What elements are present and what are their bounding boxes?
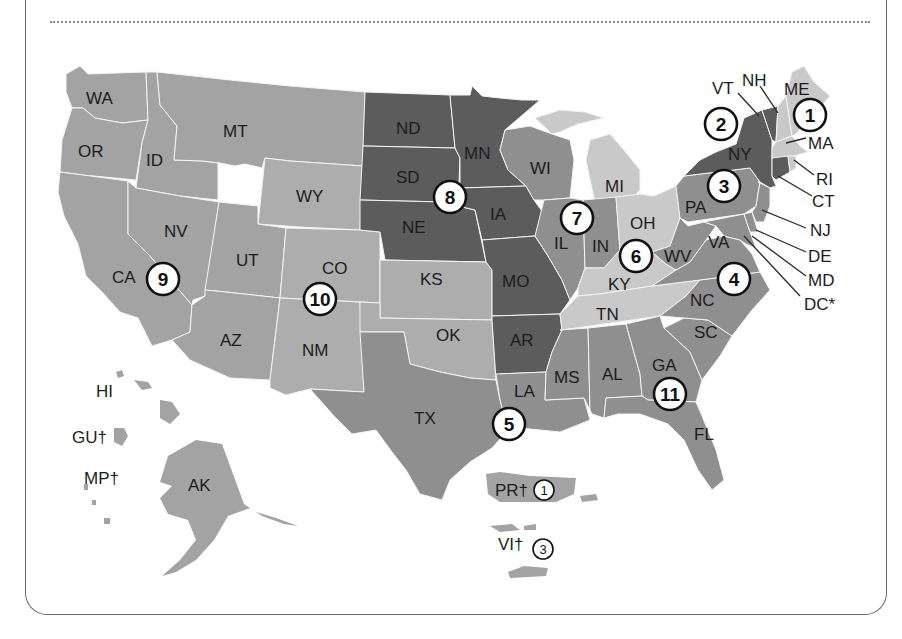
label-NV: NV — [164, 222, 188, 241]
state-RI[interactable] — [788, 156, 796, 172]
state-MT[interactable] — [157, 72, 365, 168]
label-AL: AL — [602, 365, 623, 384]
label-MT: MT — [223, 122, 248, 141]
label-WY: WY — [296, 187, 323, 206]
region-marker-7[interactable]: 7 — [561, 202, 593, 234]
label-MN: MN — [464, 144, 490, 163]
label-ME: ME — [784, 80, 810, 99]
label-MA: MA — [808, 134, 834, 153]
svg-text:1: 1 — [540, 483, 547, 498]
region-marker-8[interactable]: 8 — [434, 181, 466, 213]
label-KS: KS — [420, 270, 443, 289]
label-MS: MS — [554, 368, 580, 387]
region-marker-10[interactable]: 10 — [304, 283, 336, 315]
region-marker-6[interactable]: 6 — [620, 240, 652, 272]
label-VA: VA — [708, 233, 730, 252]
state-MP[interactable] — [84, 484, 110, 524]
label-CT: CT — [812, 192, 835, 211]
svg-text:4: 4 — [729, 269, 740, 290]
label-DE: DE — [808, 247, 832, 266]
label-ND: ND — [396, 119, 421, 138]
label-IN: IN — [592, 237, 609, 256]
label-AK: AK — [188, 476, 211, 495]
region-marker-1[interactable]: 1 — [794, 99, 826, 131]
region-marker-3[interactable]: 3 — [708, 170, 740, 202]
label-UT: UT — [236, 251, 259, 270]
label-GA: GA — [652, 356, 677, 375]
label-WV: WV — [664, 247, 692, 266]
svg-text:7: 7 — [572, 208, 583, 229]
label-RI: RI — [816, 170, 833, 189]
svg-text:11: 11 — [660, 384, 681, 405]
region-marker-5[interactable]: 5 — [493, 408, 525, 440]
label-OH: OH — [630, 214, 656, 233]
label-SD: SD — [396, 168, 420, 187]
label-MI: MI — [605, 177, 624, 196]
label-ID: ID — [146, 151, 163, 170]
label-MO: MO — [502, 272, 529, 291]
svg-text:1: 1 — [805, 105, 816, 126]
label-OR: OR — [78, 142, 104, 161]
label-VI: VI† — [498, 535, 524, 554]
label-WI: WI — [530, 159, 551, 178]
label-NY: NY — [728, 145, 752, 164]
svg-text:3: 3 — [539, 542, 546, 557]
svg-text:9: 9 — [158, 269, 169, 290]
state-shapes — [58, 66, 380, 395]
label-AR: AR — [510, 331, 534, 350]
region-marker-9[interactable]: 9 — [147, 263, 179, 295]
state-AK[interactable] — [160, 440, 298, 576]
state-KS[interactable] — [380, 260, 492, 320]
label-IL: IL — [554, 234, 568, 253]
svg-text:2: 2 — [716, 114, 727, 135]
label-WA: WA — [86, 89, 113, 108]
region-marker-11[interactable]: 11 — [654, 378, 686, 410]
label-NC: NC — [690, 291, 715, 310]
svg-text:6: 6 — [631, 246, 642, 267]
label-TX: TX — [414, 409, 436, 428]
label-VT: VT — [712, 79, 734, 98]
label-CO: CO — [322, 259, 348, 278]
label-MP: MP† — [84, 469, 119, 488]
label-NE: NE — [402, 218, 426, 237]
label-PA: PA — [685, 198, 707, 217]
svg-text:10: 10 — [309, 289, 330, 310]
label-GU: GU† — [72, 428, 107, 447]
svg-text:5: 5 — [504, 414, 515, 435]
state-HI[interactable] — [116, 370, 180, 424]
label-OK: OK — [436, 326, 461, 345]
territory-marker-VI[interactable]: 3 — [533, 539, 553, 559]
label-DC: DC* — [804, 295, 836, 314]
label-NH: NH — [742, 71, 767, 90]
label-MD: MD — [808, 271, 834, 290]
label-PR: PR† — [495, 481, 528, 500]
label-FL: FL — [694, 425, 714, 444]
label-HI: HI — [96, 382, 113, 401]
state-CT[interactable] — [772, 156, 790, 180]
state-MI-upper[interactable] — [535, 110, 604, 134]
us-regions-map: WA OR CA ID NV MT WY UT AZ CO NM ND SD N… — [0, 0, 902, 639]
label-CA: CA — [112, 268, 136, 287]
label-AZ: AZ — [220, 331, 242, 350]
label-IA: IA — [490, 205, 507, 224]
label-SC: SC — [694, 323, 718, 342]
label-NM: NM — [302, 341, 328, 360]
territory-marker-PR[interactable]: 1 — [534, 480, 554, 500]
state-GU[interactable] — [114, 428, 128, 446]
region-marker-4[interactable]: 4 — [718, 263, 750, 295]
label-KY: KY — [608, 275, 631, 294]
region-marker-2[interactable]: 2 — [705, 108, 737, 140]
label-LA: LA — [514, 382, 535, 401]
label-NJ: NJ — [810, 221, 831, 240]
svg-text:8: 8 — [445, 187, 456, 208]
svg-text:3: 3 — [719, 176, 730, 197]
label-TN: TN — [596, 305, 619, 324]
